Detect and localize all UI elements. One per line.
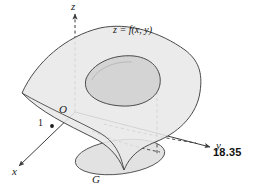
surface-equation-label: z = f(x, y) [113, 25, 152, 35]
origin-label: O [59, 104, 67, 115]
x-axis-label: x [12, 166, 17, 177]
figure-number: 18.35 [213, 146, 242, 158]
z-axis-label: z [71, 1, 75, 12]
unit-tick-marker [50, 124, 54, 128]
surface-z-equals-f [22, 26, 201, 170]
ground-region-label: G [92, 174, 100, 185]
unit-tick-label: 1 [38, 118, 43, 128]
figure-container: z y x O 1 G z = f(x, y) 18.35 [0, 0, 257, 191]
